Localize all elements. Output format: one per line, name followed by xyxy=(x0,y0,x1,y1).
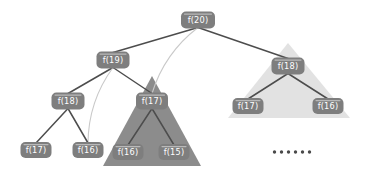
tree-node-n17_right[interactable]: f(17) xyxy=(233,98,264,114)
tree-node-n17_leaf[interactable]: f(17) xyxy=(21,142,52,158)
node-label: f(16) xyxy=(78,145,99,155)
tree-node-n19[interactable]: f(19) xyxy=(97,52,130,69)
diagram-canvas: f(20)f(19)f(18)f(17)f(16)f(17)f(16)f(15)… xyxy=(0,0,375,179)
node-label: f(16) xyxy=(318,101,339,111)
node-label: f(20) xyxy=(188,15,209,25)
tree-node-n18_right[interactable]: f(18) xyxy=(272,58,305,75)
ellipsis-dot xyxy=(308,150,311,153)
tree-edge xyxy=(113,28,198,53)
node-label: f(17) xyxy=(26,145,47,155)
tree-node-n15_dark[interactable]: f(15) xyxy=(159,144,190,160)
ellipsis-dot xyxy=(287,150,290,153)
node-label: f(16) xyxy=(118,147,139,157)
ellipsis-dot xyxy=(294,150,297,153)
node-label: f(18) xyxy=(58,96,79,106)
tree-edge xyxy=(198,28,288,59)
tree-node-n16_leaf[interactable]: f(16) xyxy=(73,142,104,158)
node-label: f(17) xyxy=(238,101,259,111)
tree-edge xyxy=(68,68,113,94)
recursion-tree-figure: f(20)f(19)f(18)f(17)f(16)f(17)f(16)f(15)… xyxy=(0,0,375,179)
node-label: f(15) xyxy=(164,147,185,157)
node-label: f(19) xyxy=(103,55,124,65)
tree-edge xyxy=(152,28,198,94)
ellipsis-marker xyxy=(273,150,311,153)
tree-node-root[interactable]: f(20) xyxy=(181,12,215,29)
tree-node-n17_dark[interactable]: f(17) xyxy=(136,93,168,110)
tree-edge xyxy=(68,109,88,144)
ellipsis-dot xyxy=(301,150,304,153)
tree-edge xyxy=(88,68,113,144)
tree-edge xyxy=(113,68,152,94)
tree-node-n18_left[interactable]: f(18) xyxy=(52,93,85,110)
node-label: f(17) xyxy=(142,96,163,106)
ellipsis-dot xyxy=(280,150,283,153)
tree-node-n16_dark[interactable]: f(16) xyxy=(113,144,144,160)
tree-node-n16_right[interactable]: f(16) xyxy=(313,98,344,114)
node-label: f(18) xyxy=(278,61,299,71)
ellipsis-dot xyxy=(273,150,276,153)
tree-edge xyxy=(36,109,68,144)
